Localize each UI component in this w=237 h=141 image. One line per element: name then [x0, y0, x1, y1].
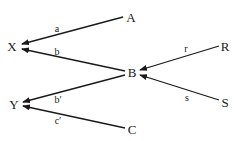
edge-label-b: b — [55, 47, 60, 57]
edge-s-arrow — [140, 75, 219, 100]
node-a: A — [126, 11, 135, 24]
edge-label-r: r — [184, 44, 187, 54]
node-s: S — [221, 96, 228, 109]
node-b: B — [128, 66, 137, 79]
node-c: C — [128, 123, 137, 136]
edge-label-s: s — [185, 93, 189, 103]
path-diagram: A X B R S Y C a b r s b′ c′ — [0, 0, 237, 141]
edge-r-arrow — [140, 46, 219, 70]
edge-label-c-prime: c′ — [55, 116, 62, 126]
edge-b-arrow — [22, 49, 125, 71]
edge-a-arrow — [22, 17, 123, 44]
node-r: R — [221, 40, 230, 53]
edge-c-prime-arrow — [23, 106, 125, 128]
edge-label-b-prime: b′ — [54, 95, 61, 105]
edge-b-prime-arrow — [23, 75, 125, 102]
edge-label-a: a — [55, 24, 59, 34]
node-y: Y — [9, 98, 18, 111]
edges-layer — [0, 0, 237, 141]
node-x: X — [7, 40, 16, 53]
